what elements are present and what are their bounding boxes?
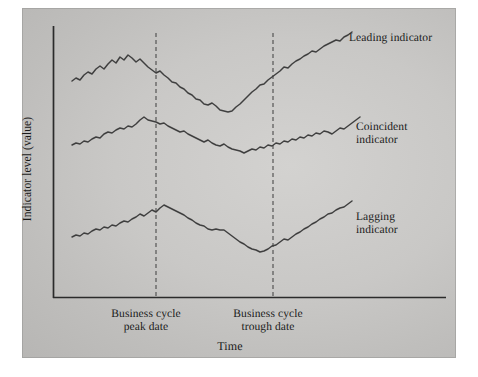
annotation-label-business-cycle-trough-date: Business cycle trough date xyxy=(210,308,326,334)
series-label-lagging-indicator: Lagging indicator xyxy=(356,211,398,237)
annotation-label-business-cycle-peak-date: Business cycle peak date xyxy=(92,308,200,334)
y-axis-label: Indicator level (value) xyxy=(21,94,33,244)
series-label-leading-indicator: Leading indicator xyxy=(349,32,432,45)
figure-panel xyxy=(22,8,456,358)
x-axis-label: Time xyxy=(165,340,295,353)
figure-page: Leading indicator Coincident indicator L… xyxy=(0,0,478,377)
series-label-coincident-indicator: Coincident indicator xyxy=(356,121,407,147)
